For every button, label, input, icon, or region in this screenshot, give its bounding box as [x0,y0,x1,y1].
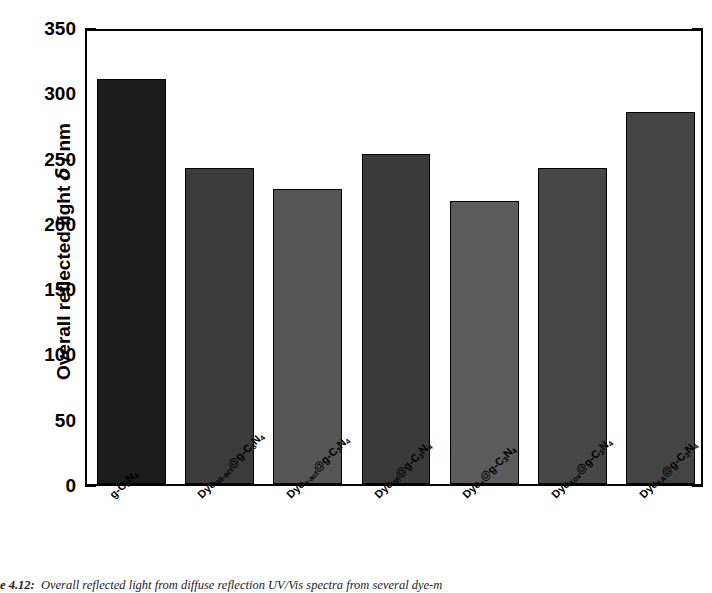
bar [97,79,166,484]
bar-series [87,31,701,484]
y-axis-tick-label: 300 [16,84,76,103]
y-axis-tick-label: 0 [16,476,76,495]
y-axis-tick-label: 200 [16,215,76,234]
bar [362,154,431,484]
y-axis-tick-label: 100 [16,345,76,364]
bar [273,189,342,484]
bar [538,168,607,484]
bar [185,168,254,484]
bar [450,201,519,484]
caption-number: e 4.12: [0,578,35,592]
y-axis-title: Overall reflected light δ / nm [52,42,75,462]
y-axis-tick-label: 350 [16,19,76,38]
plot-area [85,29,703,486]
y-axis-tick-label: 150 [16,280,76,299]
chart-figure: Overall reflected light δ / nm 050100150… [0,0,712,593]
y-axis-tick-label: 50 [16,411,76,430]
caption-text: Overall reflected light from diffuse ref… [41,578,442,592]
figure-caption: e 4.12: Overall reflected light from dif… [0,578,712,593]
bar [626,112,695,484]
y-axis-tick-label: 250 [16,150,76,169]
